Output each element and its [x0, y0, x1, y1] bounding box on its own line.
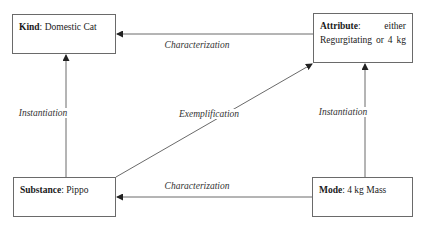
edge-substance-to-attribute	[116, 64, 312, 177]
node-attribute: Attribute:either Regurgitating or 4 kg	[313, 13, 413, 63]
node-substance: Substance: Pippo	[13, 177, 116, 217]
substance-key: Substance	[20, 185, 61, 195]
node-kind: Kind: Domestic Cat	[12, 14, 116, 54]
attribute-word: 4	[388, 33, 393, 47]
attribute-word: kg	[396, 33, 406, 47]
substance-value: Pippo	[66, 185, 88, 195]
attribute-word: Regurgitating	[320, 33, 372, 47]
label-instantiation-right: Instantiation	[317, 107, 370, 117]
label-characterization-bottom: Characterization	[163, 181, 232, 191]
attribute-word: or	[376, 33, 384, 47]
node-mode: Mode: 4 kg Mass	[312, 177, 413, 217]
label-characterization-top: Characterization	[163, 40, 232, 50]
label-exemplification: Exemplification	[177, 109, 241, 119]
kind-value: Domestic Cat	[45, 22, 97, 32]
label-instantiation-left: Instantiation	[17, 108, 70, 118]
attribute-value-line1: either	[384, 19, 406, 33]
mode-key: Mode	[319, 185, 342, 195]
mode-value: 4 kg Mass	[347, 185, 386, 195]
attribute-key: Attribute	[320, 21, 358, 31]
kind-key: Kind	[19, 22, 40, 32]
